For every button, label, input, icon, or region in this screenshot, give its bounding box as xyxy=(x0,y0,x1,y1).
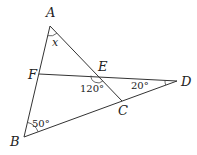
label-point-c: C xyxy=(118,103,128,118)
segment-fd xyxy=(39,74,177,81)
angle-arc-d xyxy=(165,80,166,85)
label-point-a: A xyxy=(45,5,55,20)
label-point-d: D xyxy=(180,74,192,89)
angle-label-a: x xyxy=(52,36,59,49)
label-point-e: E xyxy=(97,59,108,74)
angle-label-b: 50° xyxy=(32,118,50,129)
label-point-b: B xyxy=(9,134,20,149)
angle-label-d: 20° xyxy=(131,80,149,91)
label-point-f: F xyxy=(27,67,38,82)
geometry-diagram: A F E D C B x 120° 20° 50° xyxy=(0,0,197,155)
angle-label-e: 120° xyxy=(80,83,104,94)
